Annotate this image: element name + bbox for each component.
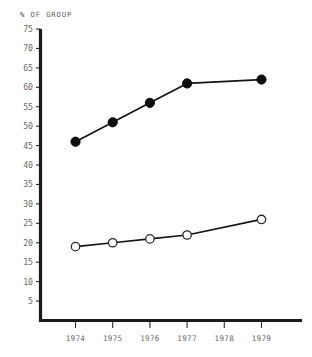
y-tick-label: 65 bbox=[23, 63, 33, 73]
data-series bbox=[71, 215, 265, 251]
y-tick-label: 60 bbox=[23, 82, 33, 92]
x-tick-label: 1976 bbox=[140, 334, 160, 343]
open-data-point-marker bbox=[109, 239, 117, 247]
chart-title: % OF GROUP bbox=[20, 10, 72, 19]
x-tick-label: 1979 bbox=[252, 334, 272, 343]
filled-data-point-marker bbox=[183, 79, 192, 88]
open-data-point-marker bbox=[183, 231, 191, 239]
filled-data-point-marker bbox=[108, 118, 117, 127]
x-tick-label: 1974 bbox=[66, 334, 86, 343]
y-tick-label: 30 bbox=[23, 199, 33, 209]
filled-data-point-marker bbox=[71, 137, 80, 146]
chart-container: % OF GROUP 75706560555045403530252015105… bbox=[0, 0, 312, 357]
series-line bbox=[76, 219, 262, 246]
y-tick-label: 50 bbox=[23, 121, 33, 131]
x-tick-label: 1977 bbox=[177, 334, 197, 343]
y-tick-label: 55 bbox=[23, 102, 33, 112]
data-series bbox=[71, 75, 266, 146]
x-tick-label: 1975 bbox=[103, 334, 123, 343]
y-tick-label: 15 bbox=[23, 257, 33, 267]
x-tick-label: 1978 bbox=[215, 334, 235, 343]
y-tick-label: 70 bbox=[23, 43, 33, 53]
filled-data-point-marker bbox=[145, 98, 154, 107]
x-axis-tick-marks bbox=[76, 322, 262, 328]
y-tick-label: 75 bbox=[23, 24, 33, 34]
line-chart: % OF GROUP 75706560555045403530252015105… bbox=[0, 0, 312, 357]
y-axis-tick-labels: 75706560555045403530252015105 bbox=[23, 24, 33, 306]
y-tick-label: 20 bbox=[23, 238, 33, 248]
y-tick-label: 5 bbox=[28, 296, 33, 306]
series-line bbox=[76, 80, 262, 142]
y-tick-label: 35 bbox=[23, 179, 33, 189]
x-axis-tick-labels: 197419751976197719781979 bbox=[66, 334, 272, 343]
y-tick-label: 10 bbox=[23, 277, 33, 287]
series-layer bbox=[71, 75, 266, 251]
open-data-point-marker bbox=[257, 215, 265, 223]
filled-data-point-marker bbox=[257, 75, 266, 84]
y-tick-label: 25 bbox=[23, 218, 33, 228]
y-tick-label: 40 bbox=[23, 160, 33, 170]
open-data-point-marker bbox=[146, 235, 154, 243]
open-data-point-marker bbox=[71, 242, 79, 250]
y-tick-label: 45 bbox=[23, 141, 33, 151]
